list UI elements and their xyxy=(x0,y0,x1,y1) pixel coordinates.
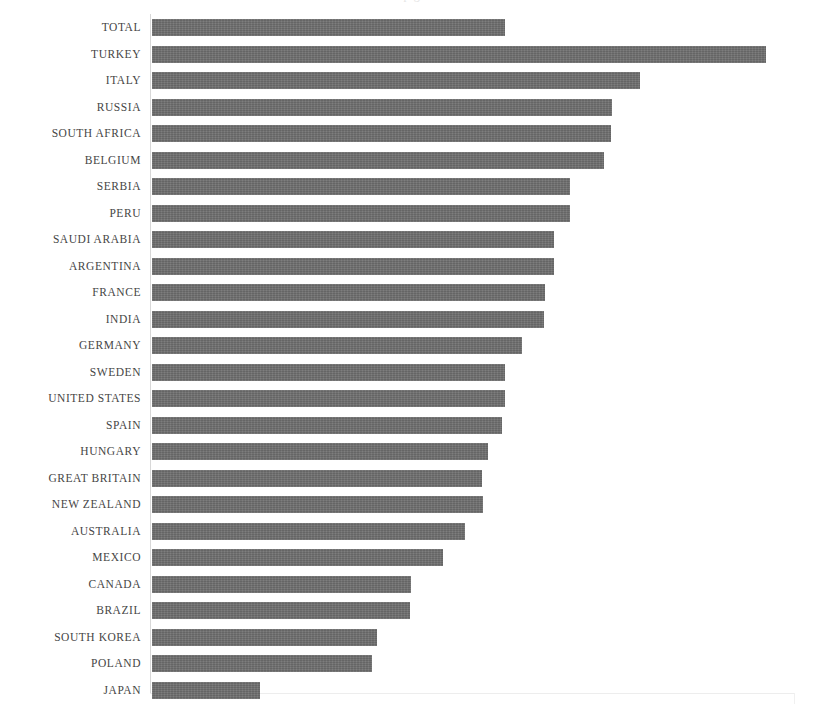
plot-area: TOTALTURKEYITALYRUSSIASOUTH AFRICABELGIU… xyxy=(0,14,824,704)
bar-row: SPAIN xyxy=(0,417,824,434)
bar-row: TOTAL xyxy=(0,19,824,36)
bar-row: GREAT BRITAIN xyxy=(0,470,824,487)
bar xyxy=(152,629,377,646)
bar xyxy=(152,417,502,434)
bar-row: MEXICO xyxy=(0,549,824,566)
bar xyxy=(152,205,570,222)
bar-category-label: ITALY xyxy=(0,72,141,89)
bar-category-label: TOTAL xyxy=(0,19,141,36)
bar-category-label: SERBIA xyxy=(0,178,141,195)
bar-row: HUNGARY xyxy=(0,443,824,460)
bar-category-label: JAPAN xyxy=(0,682,141,699)
bar xyxy=(152,178,570,195)
bar xyxy=(152,99,612,116)
bar-category-label: INDIA xyxy=(0,311,141,328)
bar xyxy=(152,443,488,460)
bar-row: ITALY xyxy=(0,72,824,89)
bar-category-label: HUNGARY xyxy=(0,443,141,460)
bar xyxy=(152,470,482,487)
bar-category-label: RUSSIA xyxy=(0,99,141,116)
bar xyxy=(152,523,465,540)
bar-row: UNITED STATES xyxy=(0,390,824,407)
bar xyxy=(152,364,505,381)
bar xyxy=(152,496,483,513)
bar xyxy=(152,231,554,248)
bar-category-label: SAUDI ARABIA xyxy=(0,231,141,248)
bar-category-label: GERMANY xyxy=(0,337,141,354)
bar-category-label: SOUTH AFRICA xyxy=(0,125,141,142)
bar-row: GERMANY xyxy=(0,337,824,354)
bar-row: BRAZIL xyxy=(0,602,824,619)
bar-category-label: SWEDEN xyxy=(0,364,141,381)
bar xyxy=(152,549,443,566)
bar xyxy=(152,602,410,619)
bar-row: JAPAN xyxy=(0,682,824,699)
bar-category-label: CANADA xyxy=(0,576,141,593)
bar-category-label: AUSTRALIA xyxy=(0,523,141,540)
bar-category-label: ARGENTINA xyxy=(0,258,141,275)
bar xyxy=(152,152,604,169)
bar-category-label: NEW ZEALAND xyxy=(0,496,141,513)
bar-row: ARGENTINA xyxy=(0,258,824,275)
bar-category-label: POLAND xyxy=(0,655,141,672)
bar xyxy=(152,655,372,672)
bar xyxy=(152,258,554,275)
bar-row: TURKEY xyxy=(0,46,824,63)
bar-row: SWEDEN xyxy=(0,364,824,381)
bar-category-label: SOUTH KOREA xyxy=(0,629,141,646)
bar-row: PERU xyxy=(0,205,824,222)
bar xyxy=(152,311,544,328)
bar xyxy=(152,682,260,699)
bar-row: RUSSIA xyxy=(0,99,824,116)
bar-row: CANADA xyxy=(0,576,824,593)
bar-category-label: TURKEY xyxy=(0,46,141,63)
bar-category-label: UNITED STATES xyxy=(0,390,141,407)
bar-row: NEW ZEALAND xyxy=(0,496,824,513)
bar xyxy=(152,390,505,407)
bar-category-label: SPAIN xyxy=(0,417,141,434)
bar-category-label: MEXICO xyxy=(0,549,141,566)
bar xyxy=(152,284,545,301)
bar-row: SAUDI ARABIA xyxy=(0,231,824,248)
bar-row: POLAND xyxy=(0,655,824,672)
bar xyxy=(152,576,411,593)
bar-row: SOUTH AFRICA xyxy=(0,125,824,142)
bar xyxy=(152,72,640,89)
bar xyxy=(152,337,522,354)
bar-category-label: GREAT BRITAIN xyxy=(0,470,141,487)
chart-title-remnant: p g xyxy=(0,0,824,12)
bar xyxy=(152,19,505,36)
bar-row: SOUTH KOREA xyxy=(0,629,824,646)
bar-row: AUSTRALIA xyxy=(0,523,824,540)
bar-category-label: BRAZIL xyxy=(0,602,141,619)
bar-category-label: PERU xyxy=(0,205,141,222)
bar-row: BELGIUM xyxy=(0,152,824,169)
bar-category-label: BELGIUM xyxy=(0,152,141,169)
bar-chart: p g TOTALTURKEYITALYRUSSIASOUTH AFRICABE… xyxy=(0,0,824,719)
bar-row: FRANCE xyxy=(0,284,824,301)
bar-category-label: FRANCE xyxy=(0,284,141,301)
bar-row: SERBIA xyxy=(0,178,824,195)
bar xyxy=(152,125,611,142)
bar-row: INDIA xyxy=(0,311,824,328)
bar xyxy=(152,46,766,63)
